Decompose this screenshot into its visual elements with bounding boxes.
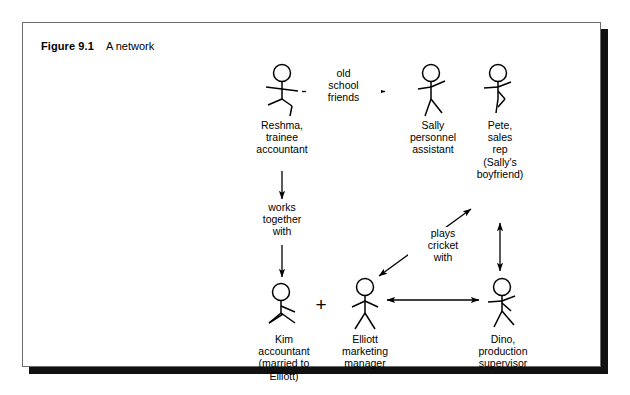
relation-label-plays-cricket-with: plays cricket with <box>408 227 478 264</box>
person-pete[interactable]: Pete, sales rep (Sally's boyfriend) <box>460 61 540 180</box>
stick-figure-icon <box>481 275 525 331</box>
figure-frame: Figure 9.1A network <box>22 22 601 367</box>
relation-label-works-together-with: works together with <box>244 201 320 238</box>
stick-figure-icon <box>411 61 455 117</box>
person-label: Reshma, trainee accountant <box>242 119 322 156</box>
person-label: Elliott marketing manager <box>323 333 407 370</box>
figure-page: Figure 9.1A network <box>0 0 630 395</box>
person-label: Kim accountant (married to Elliott) <box>242 333 326 382</box>
stick-figure-icon <box>478 61 522 117</box>
person-dino[interactable]: Dino, production supervisor <box>460 275 546 370</box>
person-label: Dino, production supervisor <box>460 333 546 370</box>
person-elliott[interactable]: Elliott marketing manager <box>323 275 407 370</box>
relation-label-old-school-friends: old school friends <box>306 67 381 104</box>
relation-plus-kim-elliott: + <box>311 295 331 314</box>
stick-figure-icon <box>260 61 304 117</box>
stick-figure-icon <box>343 275 387 331</box>
stick-figure-icon <box>262 281 306 331</box>
person-label: Pete, sales rep (Sally's boyfriend) <box>460 119 540 180</box>
